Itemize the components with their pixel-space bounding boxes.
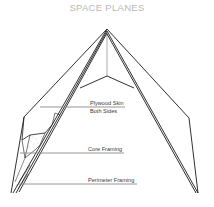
label-plywood-skin: Plywood Skin — [90, 100, 124, 106]
label-perimeter-framing: Perimeter Framing — [88, 177, 134, 183]
label-core-framing: Core Framing — [88, 146, 122, 152]
label-both-sides: Both Sides — [90, 108, 117, 114]
